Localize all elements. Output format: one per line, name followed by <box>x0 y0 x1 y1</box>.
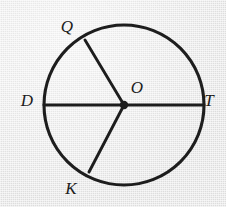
radius-segment-OQ <box>85 40 124 105</box>
geometry-figure-canvas: Q D O T K <box>0 0 226 207</box>
circle-diagram-svg <box>0 0 226 207</box>
center-point-dot <box>120 101 128 109</box>
radius-segment-OK <box>89 105 124 172</box>
point-label-T: T <box>204 92 213 109</box>
point-label-K: K <box>65 180 76 197</box>
point-label-O: O <box>131 79 143 96</box>
point-label-D: D <box>21 92 33 109</box>
point-label-Q: Q <box>61 18 73 35</box>
